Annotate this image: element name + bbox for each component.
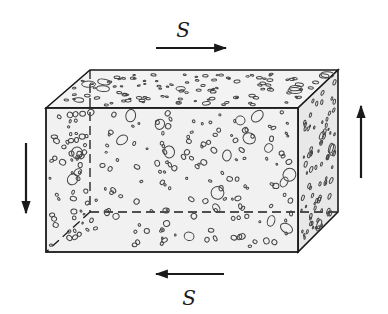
front-face: [46, 108, 298, 252]
bottom-force-label: S: [182, 286, 196, 310]
shear-block-diagram: S S: [0, 0, 388, 314]
top-force-label: S: [176, 18, 190, 42]
pore: [144, 83, 146, 84]
pore: [129, 98, 131, 99]
